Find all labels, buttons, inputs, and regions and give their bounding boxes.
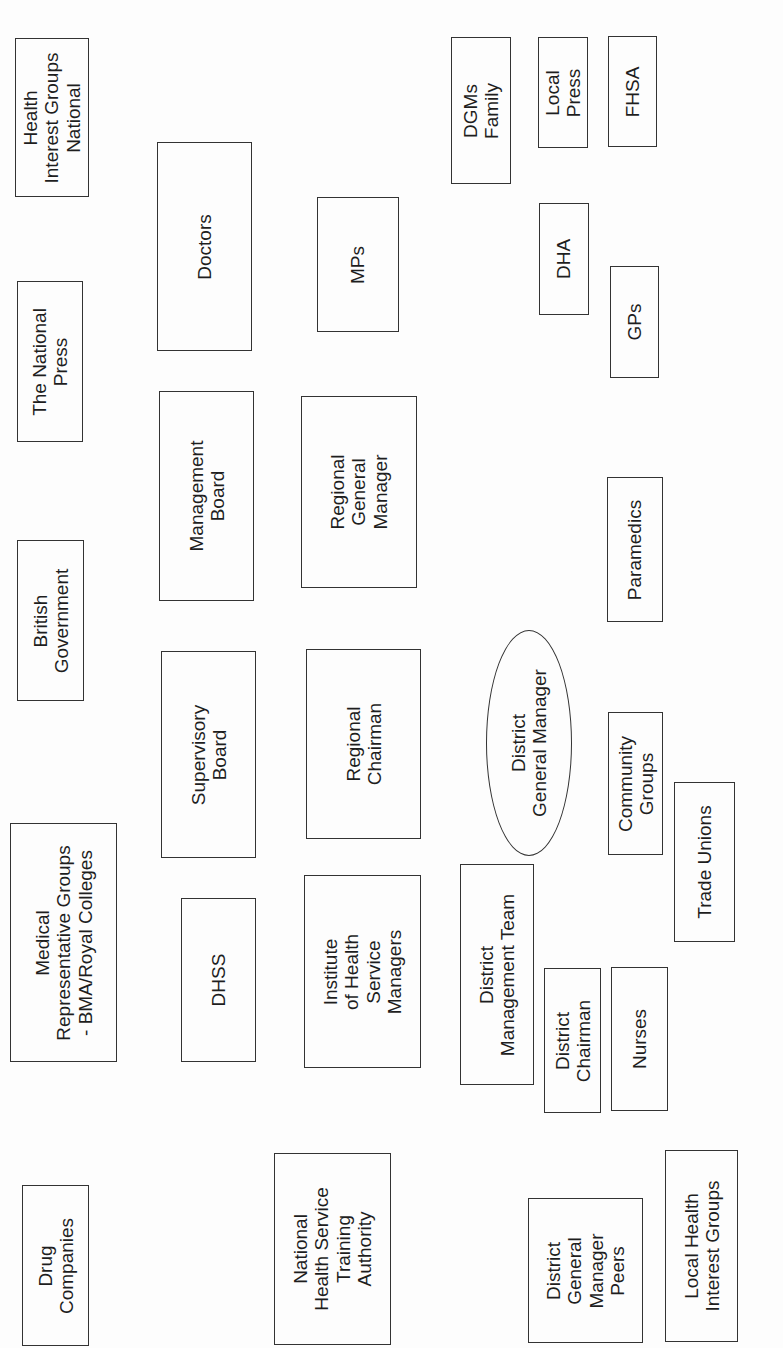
node-regional-chairman: Regional Chairman [306, 649, 421, 839]
node-nhs-training-authority: National Health Service Training Authori… [274, 1153, 391, 1345]
node-label: MPs [347, 246, 368, 284]
node-the-national-press: The National Press [17, 281, 83, 442]
node-gps: GPs [610, 266, 659, 378]
node-label: DHA [553, 239, 574, 279]
node-label: DHSS [208, 954, 229, 1007]
node-label: Nurses [629, 1009, 650, 1069]
node-dgms-family: DGMs Family [451, 37, 511, 184]
node-label: National Health Service Training Authori… [290, 1187, 375, 1311]
node-district-chairman: District Chairman [544, 968, 601, 1113]
node-label: The National Press [29, 308, 72, 416]
node-label: Drug Companies [34, 1217, 77, 1313]
node-community-groups: Community Groups [608, 712, 663, 855]
node-supervisory-board: Supervisory Board [161, 651, 256, 858]
node-institute-health-service-managers: Institute of Health Service Managers [304, 875, 421, 1068]
node-trade-unions: Trade Unions [674, 782, 735, 942]
node-paramedics: Paramedics [607, 477, 663, 622]
node-regional-general-manager: Regional General Manager [301, 396, 417, 588]
node-label: Medical Representative Groups - BMA/Roya… [32, 845, 96, 1040]
node-nurses: Nurses [611, 967, 668, 1111]
node-label: Regional General Manager [327, 455, 391, 530]
node-label: DGMs Family [460, 83, 503, 139]
node-label: Institute of Health Service Managers [320, 929, 405, 1014]
node-label: District General Manager [508, 669, 551, 817]
node-local-press: Local Press [538, 37, 588, 148]
node-label: British Government [29, 568, 72, 673]
node-health-interest-groups-national: Health Interest Groups National [15, 38, 89, 197]
node-label: Doctors [194, 214, 215, 279]
node-district-general-manager-peers: District General Manager Peers [528, 1198, 643, 1343]
node-label: Paramedics [624, 499, 645, 599]
node-medical-representative-groups: Medical Representative Groups - BMA/Roya… [10, 823, 117, 1062]
node-district-general-manager: District General Manager [486, 630, 572, 856]
node-british-government: British Government [17, 540, 84, 701]
node-label: Local Press [542, 68, 585, 117]
node-label: Trade Unions [694, 805, 715, 918]
node-label: Community Groups [614, 735, 657, 831]
node-dhss: DHSS [181, 898, 256, 1062]
node-drug-companies: Drug Companies [22, 1185, 89, 1346]
node-mps: MPs [317, 197, 399, 332]
node-management-board: Management Board [159, 391, 254, 601]
node-label: District Management Team [476, 893, 519, 1055]
node-label: GPs [624, 304, 645, 341]
node-label: Management Board [185, 441, 228, 552]
node-local-health-interest-groups: Local Health Interest Groups [665, 1150, 738, 1342]
node-label: Local Health Interest Groups [680, 1181, 723, 1312]
node-label: Health Interest Groups National [20, 52, 84, 183]
node-district-management-team: District Management Team [460, 864, 534, 1085]
node-label: District Chairman [551, 999, 594, 1081]
node-dha: DHA [539, 203, 589, 315]
node-label: Supervisory Board [187, 704, 230, 804]
node-label: FHSA [622, 66, 643, 117]
node-doctors: Doctors [157, 142, 252, 351]
node-label: Regional Chairman [342, 703, 385, 785]
node-fhsa: FHSA [608, 36, 657, 147]
node-label: District General Manager Peers [543, 1233, 628, 1308]
